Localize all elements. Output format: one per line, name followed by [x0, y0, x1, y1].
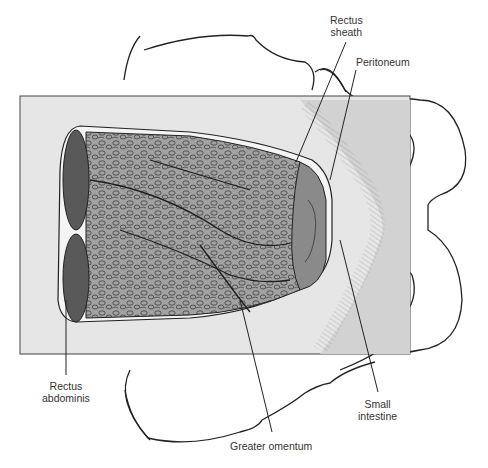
- label-rectus-sheath: Rectus sheath: [330, 14, 363, 38]
- label-rectus-abdominis: Rectus abdominis: [42, 380, 90, 404]
- label-small-intestine: Small intestine: [358, 398, 397, 422]
- small-intestine: [292, 162, 326, 290]
- greater-omentum: [86, 132, 300, 318]
- label-greater-omentum: Greater omentum: [230, 440, 312, 452]
- rectus-abdominis-lower: [63, 234, 89, 322]
- rectus-abdominis-upper: [63, 130, 89, 230]
- label-peritoneum: Peritoneum: [356, 56, 410, 68]
